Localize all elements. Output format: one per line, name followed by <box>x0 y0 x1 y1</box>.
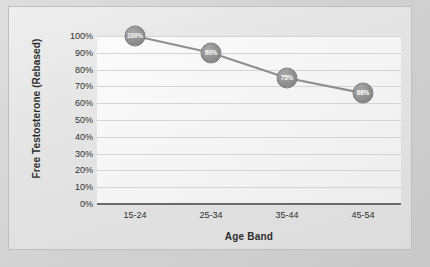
y-axis-tick-label: 20% <box>75 165 93 175</box>
data-point-marker[interactable]: 90% <box>201 42 222 63</box>
y-axis-tick-label: 80% <box>75 65 93 75</box>
chart-frame: Free Testosterone (Rebased) 100%90%80%70… <box>8 6 412 250</box>
y-axis-tick-label: 50% <box>75 115 93 125</box>
y-axis-tick-label: 10% <box>75 182 93 192</box>
x-axis-title: Age Band <box>97 231 401 242</box>
data-point-marker[interactable]: 100% <box>125 26 146 47</box>
y-axis-tick-label: 70% <box>75 81 93 91</box>
y-axis-tick-label: 30% <box>75 149 93 159</box>
y-axis-tick-labels: 100%90%80%70%60%50%40%30%20%10%0% <box>43 29 93 211</box>
x-axis-tick-label: 15-24 <box>123 210 146 220</box>
x-axis-tick-labels: 15-2425-3435-4445-54 <box>97 210 401 226</box>
plot-area: 100%90%75%66% <box>97 36 401 204</box>
y-axis-tick-label: 90% <box>75 48 93 58</box>
y-axis-tick-label: 60% <box>75 98 93 108</box>
data-point-label: 66% <box>357 90 369 97</box>
data-point-label: 75% <box>281 75 293 82</box>
data-point-marker[interactable]: 66% <box>353 83 374 104</box>
data-point-label: 100% <box>127 33 143 40</box>
y-axis-tick-label: 40% <box>75 132 93 142</box>
x-axis-tick-label: 25-34 <box>199 210 222 220</box>
y-axis-tick-label: 100% <box>70 31 93 41</box>
data-point-marker[interactable]: 75% <box>277 68 298 89</box>
y-axis-tick-label: 0% <box>80 199 93 209</box>
x-axis-tick-label: 45-54 <box>351 210 374 220</box>
line-chart: Free Testosterone (Rebased) 100%90%80%70… <box>9 7 411 249</box>
series-line <box>97 36 401 204</box>
data-point-label: 90% <box>205 50 217 57</box>
x-axis-tick-label: 35-44 <box>275 210 298 220</box>
y-axis-title: Free Testosterone (Rebased) <box>31 24 42 194</box>
